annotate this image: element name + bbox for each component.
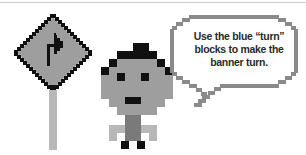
speech-line-2: blocks to make the bbox=[183, 43, 295, 56]
right-eye bbox=[141, 73, 149, 81]
left-arm bbox=[109, 125, 125, 133]
right-foot bbox=[137, 141, 145, 149]
hair bbox=[133, 43, 149, 51]
left-eye bbox=[117, 73, 125, 81]
speech-line-1: Use the blue “turn” bbox=[183, 30, 295, 43]
face bbox=[117, 59, 157, 67]
left-foot bbox=[121, 141, 129, 149]
speech-bubble-text: Use the blue “turn” blocks to make the b… bbox=[183, 30, 295, 69]
top-divider bbox=[0, 2, 306, 3]
sign-pole bbox=[49, 90, 57, 150]
turn-right-arrow-icon bbox=[40, 30, 66, 66]
mouth bbox=[125, 97, 141, 104]
speech-line-3: banner turn. bbox=[183, 56, 295, 69]
body bbox=[125, 115, 141, 141]
right-arm bbox=[141, 125, 157, 133]
